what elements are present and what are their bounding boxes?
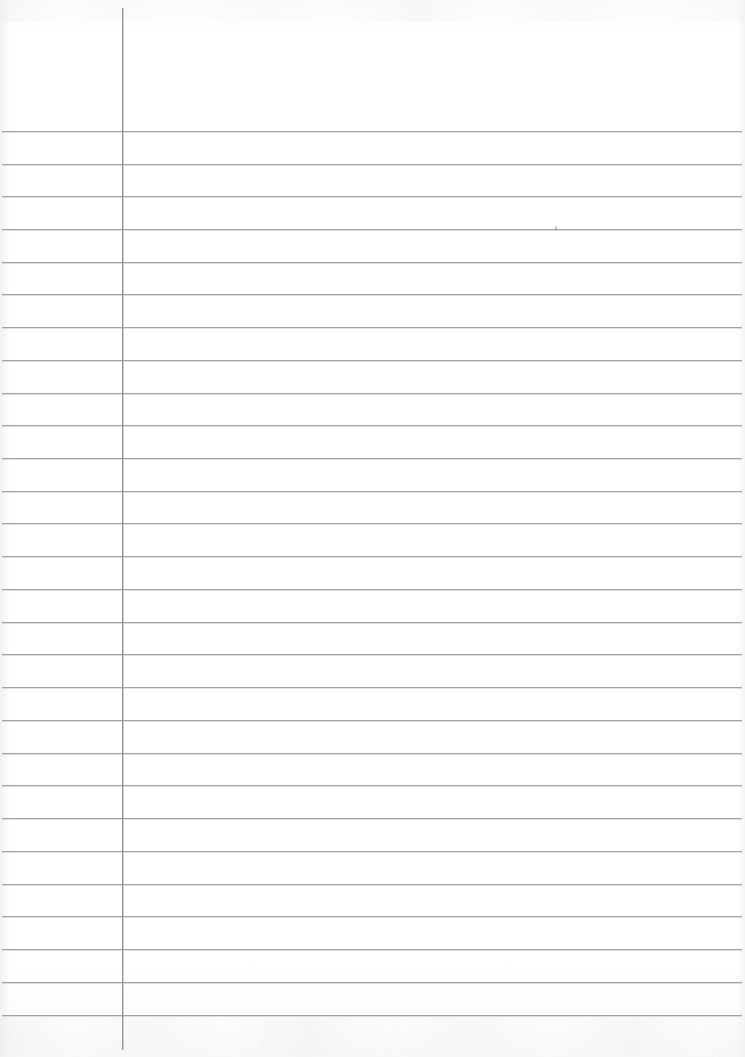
scan-noise-bottom — [0, 1017, 745, 1057]
scanned-page — [0, 0, 745, 1057]
scan-noise-top — [0, 0, 745, 22]
writing-area[interactable] — [123, 131, 743, 1016]
page-edge-shadow-left — [0, 0, 10, 1057]
